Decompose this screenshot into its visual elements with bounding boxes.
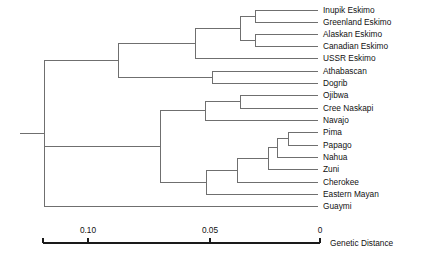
tip-label-canadian-eskimo: Canadian Eskimo xyxy=(323,41,388,51)
tip-label-dogrib: Dogrib xyxy=(323,78,348,88)
tip-label-ussr-eskimo: USSR Eskimo xyxy=(323,53,376,63)
tip-label-papago: Papago xyxy=(323,140,352,150)
tip-label-pima: Pima xyxy=(323,127,342,137)
dendrogram-figure: Inupik EskimoGreenland EskimoAlaskan Esk… xyxy=(0,0,425,262)
axis-tick-label-0: 0.10 xyxy=(80,225,97,235)
axis-tick-label-2: 0 xyxy=(318,225,323,235)
axis-tick-label-1: 0.05 xyxy=(202,225,219,235)
tree-branches xyxy=(20,10,318,206)
tip-label-cree-naskapi: Cree Naskapi xyxy=(323,103,373,113)
tree-tip-labels: Inupik EskimoGreenland EskimoAlaskan Esk… xyxy=(323,5,392,211)
tip-label-navajo: Navajo xyxy=(323,115,349,125)
tip-label-cherokee: Cherokee xyxy=(323,177,359,187)
tip-label-nahua: Nahua xyxy=(323,152,348,162)
tip-label-zuni: Zuni xyxy=(323,164,339,174)
tip-label-athabascan: Athabascan xyxy=(323,66,367,76)
tip-label-greenland-eskimo: Greenland Eskimo xyxy=(323,17,392,27)
genetic-distance-tree: Inupik EskimoGreenland EskimoAlaskan Esk… xyxy=(0,0,425,262)
tip-label-eastern-mayan: Eastern Mayan xyxy=(323,189,379,199)
axis-caption: Genetic Distance xyxy=(330,238,394,248)
tip-label-alaskan-eskimo: Alaskan Eskimo xyxy=(323,29,382,39)
tip-label-guaymi: Guaymi xyxy=(323,201,352,211)
tip-label-ojibwa: Ojibwa xyxy=(323,90,349,100)
genetic-distance-axis: 0.100.050Genetic Distance xyxy=(43,225,394,248)
tip-label-inupik-eskimo: Inupik Eskimo xyxy=(323,5,375,15)
